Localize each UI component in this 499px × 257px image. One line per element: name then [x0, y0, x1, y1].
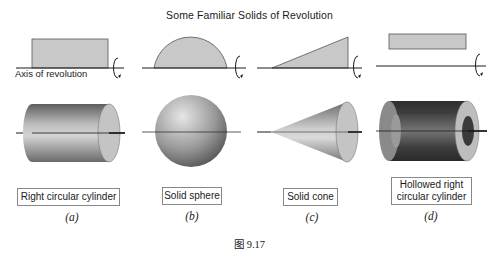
subfigure-a: (a) — [52, 211, 92, 223]
subfigure-d: (d) — [411, 210, 451, 222]
label-solid-sphere: Solid sphere — [162, 187, 222, 205]
solid-cylinder — [16, 104, 125, 162]
subfigure-c: (c) — [292, 211, 332, 223]
axis-of-revolution-label: Axis of revolution — [15, 68, 87, 79]
solid-sphere — [142, 95, 241, 167]
label-solid-cone: Solid cone — [283, 188, 338, 206]
figure-caption: 图 9.17 — [0, 236, 499, 251]
label-hollowed-right-circular-cylinder: Hollowed right circular cylinder — [391, 177, 472, 205]
subfigure-b: (b) — [172, 210, 212, 222]
profile-b — [142, 37, 246, 78]
profile-d — [376, 34, 486, 76]
label-line-2: circular cylinder — [397, 191, 466, 203]
solid-cone — [257, 102, 362, 162]
label-line-1: Hollowed right — [400, 179, 463, 191]
solid-hollow-cylinder — [376, 101, 487, 161]
label-right-circular-cylinder: Right circular cylinder — [17, 188, 120, 206]
profile-c — [257, 37, 362, 78]
